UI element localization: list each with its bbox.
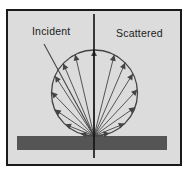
- incident-label: Incident: [32, 25, 70, 37]
- scattering-surface: [17, 136, 167, 150]
- scattered-label: Scattered: [116, 27, 163, 39]
- diagram-canvas: [0, 0, 184, 170]
- scattering-diagram: Incident Scattered: [0, 0, 184, 170]
